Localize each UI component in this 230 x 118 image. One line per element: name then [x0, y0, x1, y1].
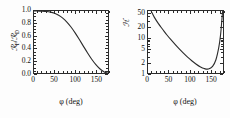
y-tick-minor: [34, 32, 36, 33]
y-tick-major-right: [105, 61, 108, 62]
x-tick-minor: [215, 71, 216, 73]
y-tick-minor: [34, 55, 36, 56]
y-tick-major: [34, 23, 37, 24]
y-tick-minor-right: [106, 13, 108, 14]
x-tick-minor-top: [160, 11, 161, 13]
y-tick-minor: [34, 42, 36, 43]
x-tick-minor-top: [58, 11, 59, 13]
y-tick-label: 10: [121, 34, 145, 42]
x-tick-minor: [109, 71, 110, 73]
y-tick-major: [34, 36, 37, 37]
x-tick-minor: [198, 71, 199, 73]
y-tick-minor: [148, 10, 150, 11]
x-tick-minor: [63, 71, 64, 73]
x-tick-minor: [67, 71, 68, 73]
x-tick-minor-top: [164, 11, 165, 13]
y-tick-minor-right: [106, 55, 108, 56]
y-tick-minor-right: [106, 39, 108, 40]
y-tick-major: [148, 63, 151, 64]
x-tick-minor-top: [41, 11, 42, 13]
x-tick-minor-top: [224, 11, 225, 13]
y-tick-minor-right: [221, 52, 223, 53]
x-tick-minor: [207, 71, 208, 73]
x-tick-minor: [50, 71, 51, 73]
y-axis-symbol-right: ℋ: [122, 19, 131, 27]
y-tick-minor-right: [221, 44, 223, 45]
y-tick-minor: [148, 52, 150, 53]
y-tick-minor-right: [106, 29, 108, 30]
y-tick-minor: [34, 52, 36, 53]
y-tick-minor-right: [221, 40, 223, 41]
x-tick-minor-top: [215, 11, 216, 13]
x-tick-minor-top: [88, 11, 89, 13]
x-tick-minor: [37, 71, 38, 73]
x-axis-title-left: φ (deg): [59, 97, 83, 106]
y-tick-minor-right: [106, 58, 108, 59]
x-tick-minor-top: [84, 11, 85, 13]
y-axis-divider: /: [10, 40, 19, 42]
x-tick-minor: [88, 71, 89, 73]
y-tick-major-right: [105, 10, 108, 11]
x-tick-minor-top: [156, 11, 157, 13]
y-tick-major-right: [105, 23, 108, 24]
y-tick-minor-right: [221, 46, 223, 47]
x-tick-major: [147, 70, 148, 73]
y-tick-minor-right: [106, 26, 108, 27]
x-tick-minor: [177, 71, 178, 73]
y-tick-major: [148, 13, 151, 14]
y-tick-minor: [34, 39, 36, 40]
x-tick-minor: [160, 71, 161, 73]
x-tick-minor-top: [203, 11, 204, 13]
y-tick-minor: [34, 71, 36, 72]
x-tick-minor: [151, 71, 152, 73]
y-tick-major-right: [105, 48, 108, 49]
x-tick-minor: [58, 71, 59, 73]
y-tick-minor-right: [106, 16, 108, 17]
y-tick-label: 2: [121, 59, 145, 67]
y-tick-minor: [148, 16, 150, 17]
curve-right: [148, 11, 223, 73]
x-tick-major-top: [96, 11, 97, 14]
y-tick-major-right: [220, 49, 223, 50]
x-tick-minor-top: [37, 11, 38, 13]
y-tick-minor: [34, 45, 36, 46]
y-tick-minor-right: [106, 64, 108, 65]
x-tick-minor-top: [207, 11, 208, 13]
y-tick-minor-right: [106, 20, 108, 21]
y-tick-major: [34, 48, 37, 49]
x-tick-minor: [203, 71, 204, 73]
x-tick-minor-top: [71, 11, 72, 13]
y-tick-minor: [34, 29, 36, 30]
x-tick-major: [168, 70, 169, 73]
x-tick-minor-top: [194, 11, 195, 13]
y-tick-minor: [148, 46, 150, 47]
x-tick-minor-top: [46, 11, 47, 13]
x-axis-title-right: φ (deg): [173, 97, 197, 106]
data-line: [151, 12, 222, 70]
x-tick-minor: [194, 71, 195, 73]
x-tick-minor: [71, 71, 72, 73]
y-tick-major: [148, 49, 151, 50]
y-tick-minor-right: [221, 16, 223, 17]
chart-panel-right: 050100150 125102050 φ (deg) ℋ: [115, 0, 230, 118]
y-tick-major-right: [105, 74, 108, 75]
x-tick-minor: [79, 71, 80, 73]
x-tick-major: [96, 70, 97, 73]
x-tick-major-top: [54, 11, 55, 14]
two-panel-figure: 050100150 0.00.20.40.60.81.0 φ (deg) ℛF/…: [0, 0, 230, 118]
y-tick-minor-right: [221, 41, 223, 42]
y-tick-label: 0.0: [7, 70, 31, 78]
x-tick-major: [211, 70, 212, 73]
x-tick-minor-top: [109, 11, 110, 13]
y-axis-title-right: ℋ: [122, 16, 131, 30]
y-tick-major-right: [105, 36, 108, 37]
x-tick-minor-top: [92, 11, 93, 13]
x-tick-major-top: [75, 11, 76, 14]
x-tick-minor: [156, 71, 157, 73]
x-tick-label: 50: [50, 76, 58, 84]
x-tick-minor: [92, 71, 93, 73]
y-tick-major: [34, 61, 37, 62]
x-tick-minor-top: [173, 11, 174, 13]
x-tick-major: [190, 70, 191, 73]
y-tick-minor-right: [106, 71, 108, 72]
